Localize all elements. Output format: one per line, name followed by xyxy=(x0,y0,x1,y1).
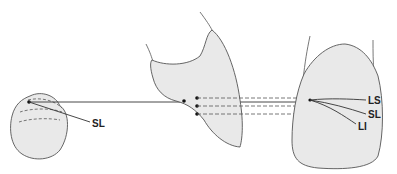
middle-outline xyxy=(151,30,243,147)
ls-label: LS xyxy=(368,95,381,106)
li-label: LI xyxy=(358,121,367,132)
right-view: LS SL LI xyxy=(292,36,383,169)
sl-label: SL xyxy=(368,109,381,120)
middle-view xyxy=(146,12,242,147)
left-sl-label: SL xyxy=(92,118,105,129)
middle-contact-point xyxy=(182,99,186,103)
diagram-canvas: SL LS SL LI xyxy=(0,0,397,174)
left-outline xyxy=(11,94,68,159)
left-view: SL xyxy=(11,94,105,159)
middle-upper-right-line xyxy=(200,12,212,30)
middle-upper-left-line xyxy=(146,44,153,62)
